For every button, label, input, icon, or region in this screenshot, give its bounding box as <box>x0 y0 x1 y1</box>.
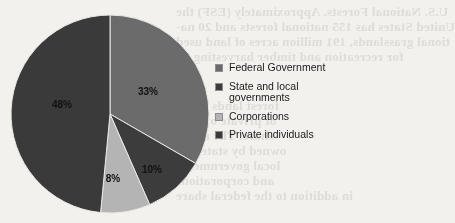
legend-swatch-icon <box>215 64 223 72</box>
chart-legend: Federal GovernmentState and localgovernm… <box>215 62 341 148</box>
legend-item-label: Private individuals <box>229 129 314 141</box>
pie-slice-value-label: 33% <box>138 86 158 97</box>
pie-slice-value-label: 48% <box>52 99 72 110</box>
pie-slice-value-label: 10% <box>142 164 162 175</box>
legend-item: Federal Government <box>215 62 341 74</box>
legend-item: State and localgovernments <box>215 81 341 104</box>
legend-swatch-icon <box>215 113 223 121</box>
pie-slice-value-label: 8% <box>106 173 121 184</box>
legend-item: Private individuals <box>215 129 341 141</box>
legend-swatch-icon <box>215 131 223 139</box>
pie-slice <box>11 15 110 213</box>
legend-item-label: Corporations <box>229 111 289 123</box>
legend-item-label: State and localgovernments <box>229 81 298 104</box>
legend-item: Corporations <box>215 111 341 123</box>
legend-item-label: Federal Government <box>229 62 325 74</box>
legend-swatch-icon <box>215 83 223 91</box>
